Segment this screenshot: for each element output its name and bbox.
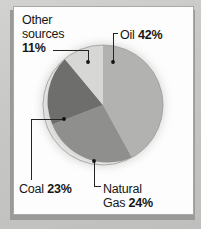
label-other-sources: Other sources 11% <box>22 13 64 55</box>
chart-figure: Other sources 11% Oil 42% Coal 23% Natur… <box>0 0 201 229</box>
label-oil-name: Oil <box>120 28 135 42</box>
pie-chart <box>40 42 166 168</box>
label-other-sources-pct: 11% <box>22 41 46 55</box>
label-oil: Oil 42% <box>120 28 162 42</box>
label-other-sources-line1: Other <box>22 13 64 27</box>
label-oil-pct: 42% <box>138 28 162 42</box>
label-other-sources-line2: sources <box>22 27 64 41</box>
label-natural-gas-line2: Gas <box>103 196 125 210</box>
label-coal-pct: 23% <box>47 182 71 196</box>
label-natural-gas-pct: 24% <box>129 196 153 210</box>
pie-slices <box>40 42 166 168</box>
label-coal-name: Coal <box>19 182 44 196</box>
label-natural-gas-line1: Natural <box>103 182 153 196</box>
label-natural-gas: Natural Gas 24% <box>103 182 153 210</box>
label-coal: Coal 23% <box>19 182 72 196</box>
